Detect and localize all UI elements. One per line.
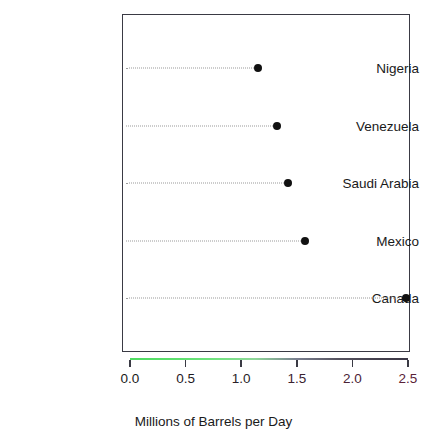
x-axis-tick [185,360,187,367]
x-axis-line [130,358,408,360]
x-axis-tick-label: 0.0 [121,371,140,386]
x-axis-tick-label: 1.5 [287,371,306,386]
x-axis-tick [240,360,242,367]
data-point [284,179,292,187]
x-axis-tick-label: 0.5 [176,371,195,386]
x-axis-tick [296,360,298,367]
x-axis-title: Millions of Barrels per Day [0,414,427,429]
guide-line [126,240,301,241]
guide-line [126,183,284,184]
x-axis-tick [352,360,354,367]
data-point [301,237,309,245]
category-label: Nigeria [313,61,427,76]
x-axis-tick-label: 1.0 [232,371,251,386]
data-point [273,122,281,130]
guide-line [126,68,254,69]
guide-line [126,298,402,299]
x-axis-tick-label: 2.0 [343,371,362,386]
category-label: Venezuela [313,118,427,133]
data-point [402,294,410,302]
guide-line [126,125,273,126]
x-axis-tick [407,360,409,367]
clipped-header-artifact: — — — — — — — — [2,0,122,3]
category-label: Mexico [313,233,427,248]
x-axis-tick [129,360,131,367]
x-axis-tick-label: 2.5 [399,371,418,386]
data-point [254,64,262,72]
category-label: Saudi Arabia [313,176,427,191]
